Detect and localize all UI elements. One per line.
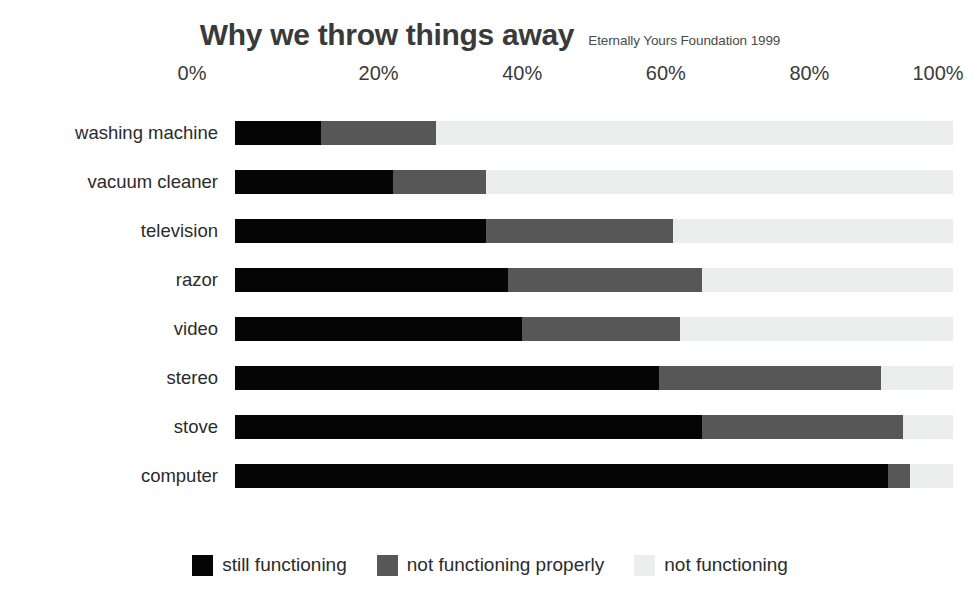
bar-segment-not-functioning-properly [486,219,673,243]
bar-category-label: computer [0,463,218,489]
x-axis-tick: 100% [912,62,963,85]
legend-swatch-icon [377,555,398,576]
legend-swatch-icon [192,555,213,576]
bar-segment-still-functioning [235,366,659,390]
legend-label: not functioning [664,554,788,576]
bar-segment-not-functioning-properly [522,317,680,341]
bar-segment-not-functioning-properly [659,366,882,390]
x-axis-tick: 60% [646,62,686,85]
bar-category-label: razor [0,267,218,293]
bar-category-label: stove [0,414,218,440]
bar-track [235,366,953,390]
bar-row: razor [0,267,980,293]
legend-item[interactable]: not functioning [634,554,788,576]
bar-segment-not-functioning-properly [393,170,486,194]
x-axis-tick: 80% [789,62,829,85]
bar-track [235,317,953,341]
bar-row: stove [0,414,980,440]
bar-track [235,268,953,292]
legend-item[interactable]: not functioning properly [377,554,605,576]
plot-area: washing machinevacuum cleanertelevisionr… [0,120,980,520]
bar-track [235,170,953,194]
bar-segment-not-functioning-properly [508,268,702,292]
bar-row: stereo [0,365,980,391]
chart-subtitle: Eternally Yours Foundation 1999 [588,33,780,48]
chart-legend: still functioningnot functioning properl… [0,548,980,582]
bar-category-label: television [0,218,218,244]
bar-segment-still-functioning [235,317,522,341]
bar-segment-still-functioning [235,415,702,439]
bar-row: vacuum cleaner [0,169,980,195]
chart-header: Why we throw things away Eternally Yours… [0,18,980,62]
bar-category-label: video [0,316,218,342]
legend-label: still functioning [222,554,347,576]
bar-track [235,464,953,488]
bar-segment-not-functioning-properly [321,121,436,145]
bar-row: television [0,218,980,244]
bar-segment-not-functioning-properly [888,464,910,488]
bar-segment-still-functioning [235,170,393,194]
bar-segment-not-functioning-properly [702,415,903,439]
x-axis-tick: 20% [359,62,399,85]
bar-row: computer [0,463,980,489]
legend-swatch-icon [634,555,655,576]
x-axis-tick: 0% [178,62,207,85]
bar-track [235,415,953,439]
bar-row: washing machine [0,120,980,146]
bar-segment-still-functioning [235,121,321,145]
bar-segment-still-functioning [235,219,486,243]
chart-page: { "header": { "title": "Why we throw thi… [0,0,980,605]
bar-track [235,121,953,145]
bar-category-label: washing machine [0,120,218,146]
page-title: Why we throw things away [200,18,575,52]
bar-category-label: vacuum cleaner [0,169,218,195]
bar-row: video [0,316,980,342]
bar-track [235,219,953,243]
legend-item[interactable]: still functioning [192,554,347,576]
bar-category-label: stereo [0,365,218,391]
x-axis: 0%20%40%60%80%100% [0,62,980,94]
x-axis-tick: 40% [502,62,542,85]
legend-label: not functioning properly [407,554,605,576]
bar-segment-still-functioning [235,464,888,488]
bar-segment-still-functioning [235,268,508,292]
